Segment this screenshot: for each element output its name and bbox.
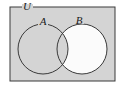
venn-diagram-figure: U A B <box>0 0 125 89</box>
set-b-label: B <box>76 14 83 26</box>
set-a-label: A <box>39 15 47 27</box>
universal-set-label: U <box>23 0 32 12</box>
venn-diagram-canvas: U A B <box>0 0 125 89</box>
shaded-region-b-minus-a <box>10 7 115 81</box>
